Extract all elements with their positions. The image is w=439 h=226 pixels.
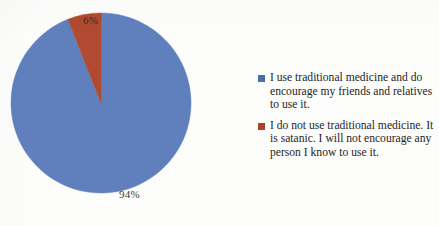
pie-data-label-red: 6% xyxy=(83,14,98,26)
pie-chart-plot-area: 6% 94% xyxy=(0,0,248,226)
legend-swatch-blue-icon xyxy=(258,75,265,82)
legend-label-blue: I use traditional medicine and do encour… xyxy=(270,71,436,112)
legend-item-blue[interactable]: I use traditional medicine and do encour… xyxy=(258,71,436,112)
chart-legend: I use traditional medicine and do encour… xyxy=(258,71,436,167)
pie-data-label-blue: 94% xyxy=(119,188,140,200)
legend-swatch-red-icon xyxy=(258,123,265,130)
legend-label-red: I do not use traditional medicine. It is… xyxy=(270,119,436,160)
legend-item-red[interactable]: I do not use traditional medicine. It is… xyxy=(258,119,436,160)
pie-chart-figure: 6% 94% I use traditional medicine and do… xyxy=(0,0,439,226)
